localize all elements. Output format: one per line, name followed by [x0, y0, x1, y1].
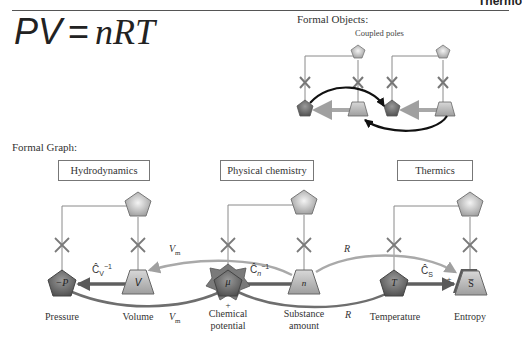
entropy-label: Entropy	[454, 311, 486, 323]
pentagon-icon	[384, 100, 400, 116]
capacitance-n-label: Ĉn−1	[250, 263, 269, 277]
pressure-label: Pressure	[45, 311, 79, 323]
r-top-label: R	[344, 243, 350, 254]
coupled-poles-diagram	[297, 45, 455, 131]
pressure-symbol: −P	[56, 277, 69, 289]
capacitance-n-sup: −1	[261, 263, 269, 270]
vm-top-label: Vm	[169, 243, 181, 257]
chemical-potential-symbol: μ	[225, 276, 230, 288]
pentagon-icon	[436, 45, 450, 58]
trapezoid-icon	[348, 102, 368, 116]
substance-amount-label-line2: amount	[289, 320, 319, 332]
capacitance-s-label: ĈS	[421, 265, 433, 278]
r-top-edge	[316, 256, 455, 273]
volume-label: Volume	[123, 311, 154, 323]
chemical-potential-label-line2: potential	[211, 320, 246, 332]
trapezoid-icon	[435, 102, 455, 116]
entropy-symbol: S̅	[468, 278, 474, 290]
physical-chemistry-pentagon-icon	[291, 190, 317, 214]
capacitance-v-sub: V	[99, 270, 104, 277]
vm-bottom-sub: m	[175, 317, 180, 325]
substance-amount-label-line1: Substance	[284, 308, 325, 320]
entropy-sign: +	[446, 273, 451, 285]
thermics-pentagon-icon	[457, 192, 483, 216]
chemical-potential-label-line1: Chemical	[209, 308, 247, 320]
vm-bottom-label: Vm	[169, 311, 181, 325]
hydrodynamics-pentagon-icon	[125, 192, 151, 216]
capacitance-v-sup: −1	[104, 263, 112, 270]
capacitance-n-sub: n	[257, 270, 261, 277]
temperature-label: Temperature	[370, 311, 420, 323]
substance-amount-symbol: n	[302, 277, 307, 289]
r-bottom-label: R	[345, 309, 351, 320]
volume-symbol: V	[135, 277, 142, 289]
temperature-symbol: T	[391, 277, 397, 289]
vm-top-sub: m	[175, 249, 180, 257]
capacitance-v-label: ĈV−1	[92, 263, 112, 277]
pentagon-icon	[351, 45, 365, 58]
formal-graph-diagram	[48, 190, 487, 307]
capacitance-s-sub: S	[428, 271, 433, 278]
